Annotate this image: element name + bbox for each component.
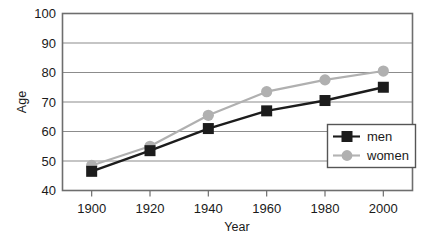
y-tick-label: 60 (42, 124, 56, 139)
y-tick-label: 100 (34, 6, 56, 21)
x-tick-label: 1960 (252, 201, 281, 216)
x-tick-label: 2000 (369, 201, 398, 216)
data-point-marker (203, 110, 214, 121)
data-point-marker (378, 65, 389, 76)
y-tick-label: 40 (42, 183, 56, 198)
data-point-marker (86, 166, 97, 177)
x-tick-label: 1940 (194, 201, 223, 216)
line-chart: 405060708090100 190019201940196019802000… (0, 0, 434, 241)
legend-women-marker-icon (342, 150, 353, 161)
legend: men women (328, 125, 416, 168)
legend-men-marker-icon (342, 131, 353, 142)
data-point-marker (319, 74, 330, 85)
data-point-marker (203, 123, 214, 134)
x-tick-label: 1980 (311, 201, 340, 216)
legend-women-label: women (366, 148, 409, 163)
y-tick-label: 70 (42, 95, 56, 110)
data-point-marker (378, 82, 389, 93)
legend-men-label: men (367, 129, 392, 144)
x-axis-title: Year (224, 220, 249, 234)
data-point-marker (261, 105, 272, 116)
y-tick-label: 80 (42, 65, 56, 80)
y-tick-label: 90 (42, 36, 56, 51)
data-point-marker (261, 86, 272, 97)
y-tick-label: 50 (42, 154, 56, 169)
data-point-marker (145, 145, 156, 156)
y-axis-title: Age (15, 91, 29, 113)
chart-canvas: 405060708090100 190019201940196019802000… (0, 0, 434, 241)
data-point-marker (320, 95, 331, 106)
x-tick-label: 1920 (136, 201, 165, 216)
x-tick-label: 1900 (77, 201, 106, 216)
